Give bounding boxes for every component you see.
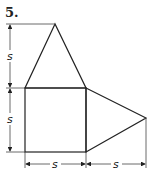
square	[25, 88, 86, 152]
geometry-figure: 5. s s s s	[0, 0, 152, 177]
label-left-top: s	[7, 50, 13, 63]
problem-number: 5.	[5, 5, 19, 20]
top-triangle	[25, 24, 86, 88]
right-triangle	[86, 88, 146, 152]
label-bottom-right: s	[113, 158, 119, 171]
label-left-bottom: s	[7, 113, 13, 126]
label-bottom-left: s	[52, 158, 58, 171]
